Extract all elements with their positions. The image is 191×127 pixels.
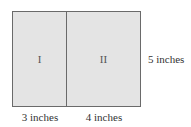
region-ii-label: II — [66, 53, 141, 65]
width-label-region-i: 3 inches — [20, 111, 60, 123]
region-i-label: I — [12, 53, 67, 65]
width-label-region-ii: 4 inches — [84, 111, 124, 123]
height-label: 5 inches — [148, 53, 184, 65]
